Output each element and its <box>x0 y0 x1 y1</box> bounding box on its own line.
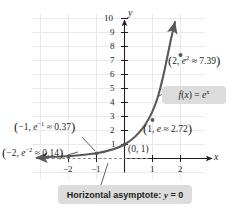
exponential-curve <box>36 22 175 158</box>
point-label-neg1: (−1, e−1 ≈ 0.37) <box>14 120 75 133</box>
horizontal-asymptote-callout: Horizontal asymptote: y = 0 <box>58 185 192 204</box>
y-tick-label-4: 4 <box>110 98 115 107</box>
point-label-two: (2, e2 ≈ 7.39) <box>168 54 220 67</box>
x-axis-label: x <box>214 152 218 162</box>
y-tick-label-9: 9 <box>110 28 115 37</box>
y-tick-label-7: 7 <box>110 56 115 65</box>
asymptote-value: = 0 <box>168 190 183 200</box>
approx-value: ≈ 0.14 <box>32 148 59 158</box>
point-label-neg2: (−2, e−2 ≈ 0.14) <box>2 146 63 159</box>
y-tick-label-2: 2 <box>110 126 115 135</box>
exponential-function-graph-figure: y x 10 9 8 7 6 5 4 3 2 1 −2 −1 1 2 (−2, … <box>0 0 240 211</box>
asymptote-text: Horizontal asymptote: y = 0 <box>67 190 183 200</box>
y-axis-label: y <box>128 8 132 18</box>
function-equation: f(x) = ex <box>179 90 210 100</box>
paren-close: ) <box>59 145 63 160</box>
point-x-value: −1, <box>18 122 33 132</box>
paren-close: ) <box>216 53 220 68</box>
exponent: x <box>206 88 209 95</box>
graph-canvas <box>0 0 240 211</box>
point-label-one: (1, e ≈ 2.72) <box>143 122 192 135</box>
equals-sign: = <box>192 90 202 100</box>
approx-value: ≈ 2.72 <box>161 124 188 134</box>
y-tick-label-5: 5 <box>110 84 115 93</box>
point-x-value: 1, <box>147 124 157 134</box>
y-tick-label-1: 1 <box>111 140 116 149</box>
x-tick-label-neg2: −2 <box>63 165 73 174</box>
point-x-value: 2, <box>172 56 182 66</box>
x-tick-label-1: 1 <box>150 165 155 174</box>
paren-close: ) <box>71 119 75 134</box>
y-tick-label-3: 3 <box>110 112 115 121</box>
approx-value: ≈ 0.37 <box>44 122 71 132</box>
asymptote-prefix: Horizontal asymptote: <box>67 190 164 200</box>
x-tick-label-2: 2 <box>178 165 183 174</box>
approx-value: ≈ 7.39 <box>189 56 216 66</box>
y-tick-label-10: 10 <box>104 14 113 23</box>
y-tick-label-6: 6 <box>110 70 115 79</box>
x-tick-label-neg1: −1 <box>91 165 101 174</box>
function-equation-callout: f(x) = ex <box>162 86 226 104</box>
paren-close: ) <box>188 121 192 136</box>
y-tick-label-8: 8 <box>110 42 115 51</box>
point-label-zero: (0, 1) <box>128 145 149 155</box>
point-x-value: −2, <box>6 148 21 158</box>
